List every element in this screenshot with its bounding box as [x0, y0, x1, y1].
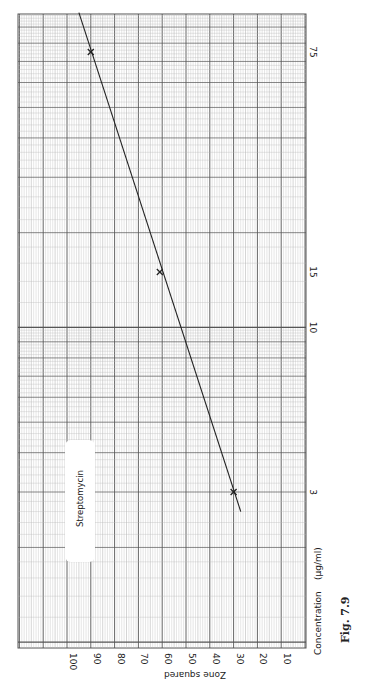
- x-tick-label: 50: [187, 653, 197, 665]
- x-tick-label: 30: [235, 653, 245, 665]
- x-tick-label: 10: [282, 653, 292, 665]
- legend: Streptomycin: [65, 440, 95, 562]
- y-tick-label: 15: [308, 266, 318, 277]
- figure-label: Fig. 7.9: [339, 597, 352, 643]
- x-axis-ticks: 100908070605040302010: [68, 653, 292, 670]
- x-tick-label: 70: [139, 653, 149, 665]
- y-axis-title: Concentration (µg/ml): [313, 547, 323, 655]
- y-axis-unit: (µg/ml): [313, 547, 323, 580]
- y-tick-label: 3: [308, 489, 318, 495]
- x-tick-label: 90: [92, 653, 102, 665]
- x-tick-label: 40: [211, 653, 221, 665]
- x-tick-label: 60: [163, 653, 173, 665]
- x-axis-title: Zone squared: [164, 670, 226, 680]
- y-tick-label: 10: [308, 322, 318, 334]
- graph-paper-grid: [18, 14, 306, 648]
- legend-label: Streptomycin: [75, 470, 85, 527]
- x-tick-label: 100: [68, 653, 78, 670]
- x-tick-label: 20: [258, 653, 268, 665]
- y-axis-title-text: Concentration: [313, 591, 323, 655]
- chart: Streptomycin 100908070605040302010 75151…: [0, 0, 368, 687]
- y-axis-ticks: 7515103: [308, 46, 318, 495]
- y-tick-label: 75: [308, 46, 318, 57]
- x-tick-label: 80: [116, 653, 126, 665]
